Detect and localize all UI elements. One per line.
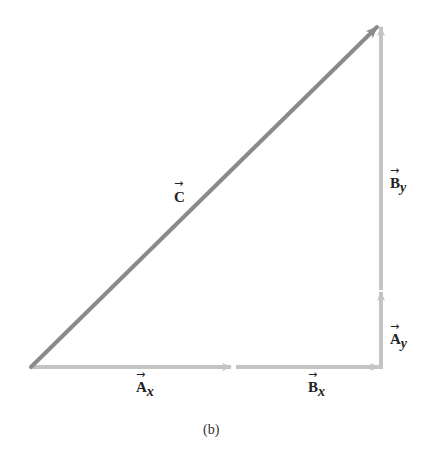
svg-text:Ay: Ay — [390, 331, 408, 351]
label-c: C → — [174, 177, 185, 205]
vector-arrow-icon: → — [174, 177, 183, 190]
vector-arrow-icon: → — [390, 320, 399, 333]
figure-caption: (b) — [203, 422, 220, 438]
label-ay: Ay → — [390, 320, 408, 351]
label-bx: Bx → — [308, 368, 325, 399]
vector-c — [31, 27, 377, 367]
vector-arrow-icon: → — [390, 164, 399, 177]
svg-text:Ax: Ax — [136, 379, 154, 399]
svg-text:By: By — [390, 175, 407, 195]
vector-addition-diagram: C → By → Ay → Ax → Bx → (b) — [0, 0, 433, 459]
label-ax: Ax → — [136, 368, 154, 399]
vector-arrow-icon: → — [308, 368, 317, 381]
vector-arrow-icon: → — [136, 368, 145, 381]
svg-text:C: C — [174, 189, 185, 205]
label-by: By → — [390, 164, 407, 195]
svg-text:Bx: Bx — [308, 379, 325, 399]
